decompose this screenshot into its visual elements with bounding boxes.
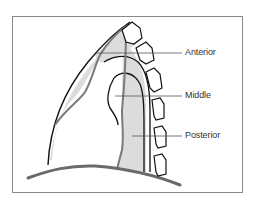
label-anterior: Anterior <box>185 48 216 57</box>
label-middle: Middle <box>185 91 211 100</box>
diagram-canvas <box>0 0 254 203</box>
vertebra <box>152 98 164 120</box>
vertebra <box>154 126 166 148</box>
vertebra <box>154 154 166 176</box>
label-posterior: Posterior <box>185 131 220 140</box>
mediastinum-diagram: Anterior Middle Posterior <box>0 0 254 203</box>
